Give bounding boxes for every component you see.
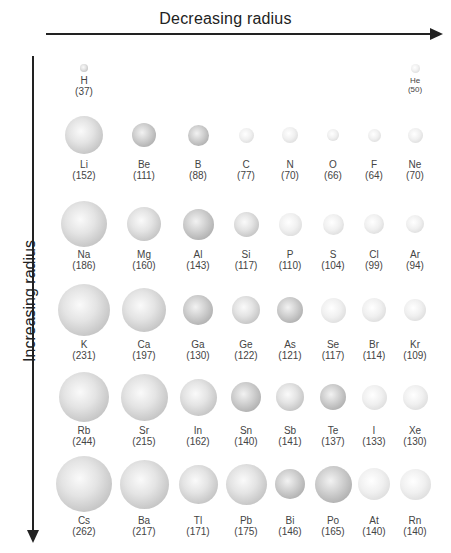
element-radius-value: (231) — [54, 350, 114, 361]
atom-sphere-rn — [400, 469, 431, 500]
element-symbol: Mg — [114, 250, 174, 260]
atom-sphere-ne — [408, 128, 423, 143]
element-label-ca: Ca(197) — [114, 340, 174, 361]
element-radius-value: (186) — [54, 260, 114, 271]
right-arrow-icon — [430, 28, 443, 40]
element-radius-value: (50) — [385, 85, 445, 94]
atom-sphere-sn — [231, 382, 261, 412]
element-symbol: Sr — [114, 426, 174, 436]
element-label-li: Li(152) — [54, 160, 114, 181]
atom-sphere-ba — [120, 460, 169, 509]
atom-sphere-b — [188, 125, 209, 146]
atom-sphere-in — [180, 379, 217, 416]
atom-sphere-h — [80, 64, 88, 72]
element-label-na: Na(186) — [54, 250, 114, 271]
atom-sphere-f — [368, 129, 381, 142]
element-radius-value: (160) — [114, 260, 174, 271]
top-axis-line — [46, 33, 434, 35]
element-label-k: K(231) — [54, 340, 114, 361]
atom-sphere-si — [234, 212, 259, 237]
top-axis-title: Decreasing radius — [0, 10, 451, 28]
atom-sphere-ge — [232, 296, 260, 324]
atom-sphere-i — [362, 385, 387, 410]
atom-sphere-bi — [275, 469, 305, 499]
element-label-h: H(37) — [54, 76, 114, 97]
element-symbol: Ar — [385, 250, 445, 260]
atom-sphere-k — [58, 284, 110, 336]
element-label-ba: Ba(217) — [114, 516, 174, 537]
element-radius-value: (111) — [114, 170, 174, 181]
element-radius-value: (244) — [54, 436, 114, 447]
atom-sphere-p — [279, 213, 302, 236]
element-symbol: Ca — [114, 340, 174, 350]
element-radius-value: (109) — [385, 350, 445, 361]
atom-sphere-mg — [127, 207, 161, 241]
atom-sphere-se — [321, 298, 346, 323]
element-radius-value: (140) — [385, 526, 445, 537]
atom-sphere-ca — [122, 288, 166, 332]
atom-sphere-c — [239, 128, 254, 143]
atom-sphere-as — [277, 297, 303, 323]
atom-sphere-o — [327, 129, 339, 141]
element-symbol: Xe — [385, 426, 445, 436]
element-symbol: H — [54, 76, 114, 86]
element-label-rb: Rb(244) — [54, 426, 114, 447]
atom-sphere-po — [315, 466, 352, 503]
atom-sphere-ga — [183, 295, 213, 325]
atom-sphere-te — [320, 384, 346, 410]
atom-sphere-sr — [121, 374, 168, 421]
atom-sphere-tl — [179, 465, 218, 504]
element-radius-value: (130) — [385, 436, 445, 447]
element-label-he: He(50) — [385, 76, 445, 94]
atom-sphere-n — [282, 127, 298, 143]
atom-sphere-na — [61, 201, 107, 247]
element-label-rn: Rn(140) — [385, 516, 445, 537]
down-arrow-icon — [27, 530, 39, 543]
element-symbol: Na — [54, 250, 114, 260]
atom-sphere-cl — [364, 214, 384, 234]
element-label-xe: Xe(130) — [385, 426, 445, 447]
element-symbol: Ba — [114, 516, 174, 526]
element-symbol: Kr — [385, 340, 445, 350]
atom-sphere-li — [65, 116, 103, 154]
element-label-sr: Sr(215) — [114, 426, 174, 447]
atom-sphere-be — [132, 123, 156, 147]
element-radius-value: (94) — [385, 260, 445, 271]
atom-sphere-pb — [226, 464, 267, 505]
left-axis-title: Increasing radius — [21, 231, 39, 371]
element-label-ar: Ar(94) — [385, 250, 445, 271]
element-radius-value: (70) — [385, 170, 445, 181]
atom-sphere-ar — [406, 215, 424, 233]
atom-sphere-br — [362, 298, 386, 322]
element-label-be: Be(111) — [114, 160, 174, 181]
atom-sphere-cs — [56, 456, 112, 512]
atom-sphere-kr — [404, 299, 426, 321]
atom-sphere-sb — [276, 383, 304, 411]
element-radius-value: (37) — [54, 86, 114, 97]
element-radius-value: (262) — [54, 526, 114, 537]
atom-sphere-rb — [59, 372, 109, 422]
element-label-ne: Ne(70) — [385, 160, 445, 181]
atom-sphere-xe — [403, 385, 428, 410]
element-radius-value: (215) — [114, 436, 174, 447]
atom-sphere-s — [323, 214, 344, 235]
element-symbol: Ne — [385, 160, 445, 170]
element-symbol: Cs — [54, 516, 114, 526]
element-symbol: He — [385, 76, 445, 85]
element-label-kr: Kr(109) — [385, 340, 445, 361]
element-radius-value: (197) — [114, 350, 174, 361]
atom-sphere-at — [358, 468, 390, 500]
atom-sphere-he — [411, 64, 420, 73]
element-symbol: Rn — [385, 516, 445, 526]
element-radius-value: (152) — [54, 170, 114, 181]
element-radius-value: (217) — [114, 526, 174, 537]
element-symbol: K — [54, 340, 114, 350]
element-label-cs: Cs(262) — [54, 516, 114, 537]
atom-sphere-al — [183, 209, 214, 240]
element-symbol: Be — [114, 160, 174, 170]
element-symbol: Li — [54, 160, 114, 170]
element-label-mg: Mg(160) — [114, 250, 174, 271]
element-symbol: Rb — [54, 426, 114, 436]
